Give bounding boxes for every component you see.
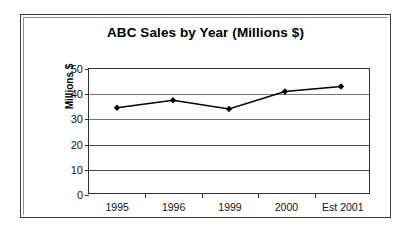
- data-point-marker: [338, 83, 344, 89]
- data-series-line: [89, 69, 369, 194]
- y-axis-tick-label: 10: [71, 164, 83, 176]
- data-point-marker: [114, 105, 120, 111]
- chart-title: ABC Sales by Year (Millions $): [21, 25, 390, 40]
- x-axis-tick-label: Est 2001: [322, 201, 363, 213]
- y-axis-tick-label: 40: [71, 88, 83, 100]
- y-axis-tick-label: 30: [71, 113, 83, 125]
- y-axis-title: Millions $: [64, 50, 75, 124]
- plot-area: 01020304050 1995199619992000Est 2001: [88, 68, 370, 194]
- y-axis-tick-label: 0: [77, 189, 83, 201]
- data-point-marker: [170, 97, 176, 103]
- y-axis-tick-label: 20: [71, 139, 83, 151]
- x-axis-tick-label: 1995: [106, 201, 129, 213]
- x-axis-tick-label: 1999: [218, 201, 241, 213]
- data-point-marker: [226, 106, 232, 112]
- x-axis-tick-label: 2000: [275, 201, 298, 213]
- x-axis-tick-label: 1996: [162, 201, 185, 213]
- chart-frame: ABC Sales by Year (Millions $) Millions …: [20, 14, 391, 218]
- data-point-marker: [282, 88, 288, 94]
- y-axis-tick-label: 50: [71, 63, 83, 75]
- chart-screenshot: ABC Sales by Year (Millions $) Millions …: [0, 0, 411, 234]
- y-axis-tick: [85, 195, 89, 196]
- series-polyline: [117, 87, 341, 110]
